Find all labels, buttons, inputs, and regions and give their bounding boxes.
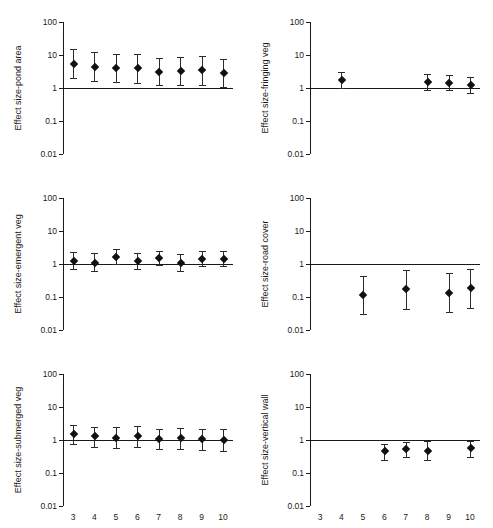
y-axis-tick-label: 100 <box>19 194 57 203</box>
y-axis-tick-label: 0.01 <box>19 502 57 511</box>
error-bar-cap-upper <box>360 276 367 277</box>
panel-middle-left: 1001010.10.01Effect size-emergent veg <box>0 176 246 352</box>
error-bar-cap-upper <box>403 442 410 443</box>
error-bar-cap-lower <box>199 85 206 86</box>
y-axis-tick <box>59 22 63 23</box>
data-point-marker <box>69 430 77 438</box>
y-axis-tick-label: 0.01 <box>266 150 304 159</box>
data-point-marker <box>69 60 77 68</box>
y-axis-tick <box>59 198 63 199</box>
error-bar-cap-upper <box>91 52 98 53</box>
error-bar-cap-upper <box>70 252 77 253</box>
data-point-marker <box>91 63 99 71</box>
data-point-marker <box>155 68 163 76</box>
x-axis-tick-label: 6 <box>372 513 396 522</box>
data-point-marker <box>155 254 163 262</box>
error-bar-cap-upper <box>446 75 453 76</box>
y-axis-tick-label: 1 <box>266 84 304 93</box>
error-bar-cap-lower <box>467 308 474 309</box>
error-bar-cap-lower <box>199 266 206 267</box>
data-point-marker <box>402 445 410 453</box>
y-axis-tick-label: 0.1 <box>19 117 57 126</box>
panel-top-right: 1001010.10.01Effect size-fringing veg <box>247 0 493 176</box>
reference-line <box>63 440 233 441</box>
error-bar-cap-upper <box>220 429 227 430</box>
data-point-marker <box>91 258 99 266</box>
data-point-marker <box>445 79 453 87</box>
y-axis-tick-label: 0.01 <box>266 326 304 335</box>
data-point-marker <box>381 447 389 455</box>
error-bar-cap-upper <box>199 251 206 252</box>
reference-line <box>63 88 233 89</box>
error-bar-cap-lower <box>467 93 474 94</box>
error-bar-cap-lower <box>91 271 98 272</box>
y-axis-tick-label: 1 <box>19 436 57 445</box>
x-axis-tick-label: 6 <box>125 513 149 522</box>
y-axis-tick-label: 0.01 <box>19 150 57 159</box>
y-axis-tick-label: 0.1 <box>266 293 304 302</box>
error-bar-cap-upper <box>220 251 227 252</box>
y-axis-tick-label: 10 <box>19 51 57 60</box>
y-axis-tick <box>59 473 63 474</box>
x-axis-tick-label: 3 <box>61 513 85 522</box>
error-bar-cap-upper <box>177 254 184 255</box>
reference-line <box>63 264 233 265</box>
x-axis-tick-label: 7 <box>147 513 171 522</box>
y-axis-tick-label: 1 <box>19 260 57 269</box>
y-axis-tick-label: 0.1 <box>19 293 57 302</box>
y-axis-tick <box>59 55 63 56</box>
y-axis-tick <box>306 473 310 474</box>
y-axis-tick <box>59 231 63 232</box>
error-bar-cap-upper <box>199 429 206 430</box>
error-bar-cap-lower <box>220 266 227 267</box>
data-point-marker <box>112 253 120 261</box>
x-axis-tick-label: 7 <box>394 513 418 522</box>
reference-line <box>310 88 480 89</box>
error-bar-cap-lower <box>403 457 410 458</box>
error-bar-cap-upper <box>467 441 474 442</box>
y-axis-tick-label: 1 <box>266 260 304 269</box>
error-bar-cap-lower <box>113 82 120 83</box>
error-bar-cap-upper <box>91 253 98 254</box>
y-axis-tick <box>59 154 63 155</box>
data-point-marker <box>134 64 142 72</box>
y-axis-title: Effect size-road cover <box>261 198 270 330</box>
y-axis-tick <box>59 297 63 298</box>
panel-bottom-right: 1001010.10.01Effect size-vertical wall34… <box>247 352 493 528</box>
error-bar-cap-lower <box>177 85 184 86</box>
data-point-marker <box>445 288 453 296</box>
error-bar-cap-lower <box>381 460 388 461</box>
error-bar-cap-upper <box>381 444 388 445</box>
error-bar-cap-upper <box>156 251 163 252</box>
y-axis-tick-label: 10 <box>266 51 304 60</box>
error-bar-cap-upper <box>134 253 141 254</box>
x-axis-tick-label: 5 <box>104 513 128 522</box>
data-point-marker <box>423 78 431 86</box>
y-axis-tick <box>306 198 310 199</box>
y-axis-title: Effect size-pond area <box>14 22 23 154</box>
error-bar-cap-lower <box>446 90 453 91</box>
data-point-marker <box>219 255 227 263</box>
error-bar-cap-upper <box>220 59 227 60</box>
data-point-marker <box>466 444 474 452</box>
error-bar-cap-upper <box>177 428 184 429</box>
error-bar-cap-lower <box>220 87 227 88</box>
y-axis-tick <box>59 330 63 331</box>
x-axis-tick-label: 9 <box>437 513 461 522</box>
x-axis-tick-label: 8 <box>168 513 192 522</box>
panel-bottom-left: 1001010.10.01Effect size-submerged veg34… <box>0 352 246 528</box>
panel-top-left: 1001010.10.01Effect size-pond area <box>0 0 246 176</box>
y-axis-tick-label: 100 <box>266 194 304 203</box>
error-bar-cap-upper <box>424 74 431 75</box>
y-axis-title: Effect size-submerged veg <box>14 374 23 506</box>
plot-area: 1001010.10.01Effect size-vertical wall34… <box>247 352 493 528</box>
data-point-marker <box>155 435 163 443</box>
x-axis-tick-label: 10 <box>458 513 482 522</box>
error-bar-cap-upper <box>70 425 77 426</box>
panel-middle-right: 1001010.10.01Effect size-road cover <box>247 176 493 352</box>
x-axis-tick-label: 10 <box>211 513 235 522</box>
error-bar-cap-upper <box>467 77 474 78</box>
y-axis-tick <box>306 374 310 375</box>
data-point-marker <box>176 259 184 267</box>
error-bar-cap-upper <box>446 273 453 274</box>
